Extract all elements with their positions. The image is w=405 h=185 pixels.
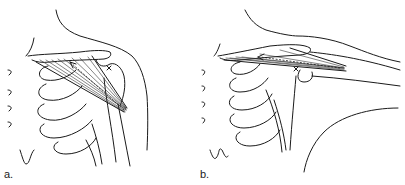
muscle-fibers [36,56,127,112]
humeral-head [298,70,313,82]
ribcage [229,62,286,152]
panel-b-drawing [200,0,405,185]
arm-lower-edge [312,76,400,86]
panel-label-b: b. [200,168,209,180]
neck-outline [245,10,400,62]
neck-outline [56,10,148,150]
sternum-marks [202,70,228,159]
jaw-line [26,38,34,56]
jaw-line [214,44,220,56]
humerus-shaft-inner [118,104,130,166]
pivot-mark-icon [107,66,111,70]
panel-label-a: a. [4,168,13,180]
sternum-marks [8,70,34,164]
panel-a-drawing [0,0,200,185]
pivot-mark-icon [294,67,298,71]
clavicle [28,51,111,63]
anatomical-figure: a. b. [0,0,405,185]
torso-side [290,76,296,150]
axilla-curve [304,108,398,172]
